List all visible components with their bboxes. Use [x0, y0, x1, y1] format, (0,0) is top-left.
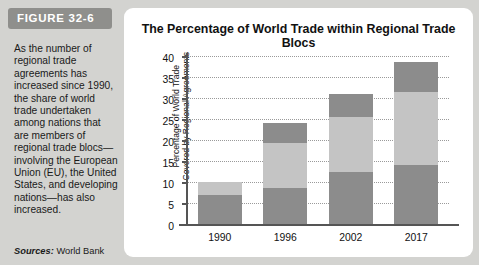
gridline — [187, 56, 449, 57]
y-axis-tick: 10 — [182, 182, 188, 184]
y-axis-tick-label: 35 — [162, 74, 174, 85]
bar-segment-lower-segment — [394, 165, 438, 224]
caption-column: FIGURE 32-6 As the number of regional tr… — [0, 0, 124, 265]
y-axis-tick: 35 — [182, 77, 188, 79]
y-axis-tick-label: 30 — [162, 95, 174, 106]
y-axis-tick: 25 — [182, 119, 188, 121]
y-axis-tick-label: 5 — [168, 200, 174, 211]
chart-card: The Percentage of World Trade within Reg… — [124, 8, 473, 257]
bar-1990 — [198, 182, 242, 224]
y-axis-tick-label: 0 — [168, 221, 174, 232]
bar-segment-middle-segment — [198, 182, 242, 195]
bar-segment-middle-segment — [394, 92, 438, 166]
source-label: Sources: — [14, 246, 54, 256]
y-axis-tick-label: 40 — [162, 53, 174, 64]
y-axis-tick: 40 — [182, 56, 188, 58]
y-axis-tick: 15 — [182, 161, 188, 163]
x-axis-tick-label: 2002 — [339, 232, 362, 243]
y-axis-tick-label: 10 — [162, 179, 174, 190]
bar-1996 — [263, 123, 307, 224]
y-axis-tick: 20 — [182, 140, 188, 142]
y-axis-tick: 30 — [182, 98, 188, 100]
x-axis-tick-label: 1990 — [208, 232, 231, 243]
bar-2002 — [329, 94, 373, 224]
x-axis-tick-label: 2017 — [405, 232, 428, 243]
figure-number-badge: FIGURE 32-6 — [8, 8, 112, 29]
bar-segment-lower-segment — [263, 188, 307, 224]
figure-source-line: Sources: World Bank — [14, 246, 126, 256]
bar-segment-upper-segment — [263, 123, 307, 143]
bar-segment-middle-segment — [263, 143, 307, 188]
y-axis-tick-label: 20 — [162, 137, 174, 148]
bar-segment-middle-segment — [329, 117, 373, 172]
source-value: World Bank — [56, 246, 104, 256]
plot-area: 05101520253035401990199620022017 — [187, 56, 449, 224]
bar-segment-lower-segment — [329, 172, 373, 224]
bar-segment-lower-segment — [198, 195, 242, 224]
figure-caption-text: As the number of regional trade agreemen… — [14, 43, 118, 217]
x-axis-tick-label: 1996 — [274, 232, 297, 243]
y-axis-tick: 0 — [182, 224, 188, 226]
y-axis-tick-label: 15 — [162, 158, 174, 169]
y-axis-tick-label: 25 — [162, 116, 174, 127]
bar-segment-upper-segment — [394, 62, 438, 91]
chart-panel: The Percentage of World Trade within Reg… — [124, 0, 479, 265]
figure-container: FIGURE 32-6 As the number of regional tr… — [0, 0, 479, 265]
x-axis-line — [179, 224, 459, 226]
y-axis-tick: 5 — [182, 203, 188, 205]
bar-segment-upper-segment — [329, 94, 373, 117]
bar-2017 — [394, 62, 438, 224]
